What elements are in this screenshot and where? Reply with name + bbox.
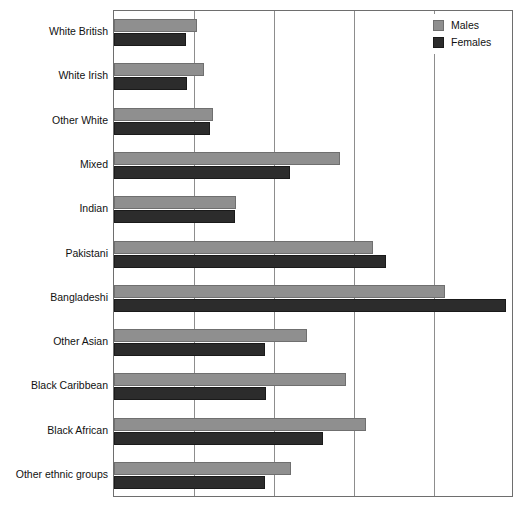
- legend-item-males: Males: [433, 18, 506, 33]
- bar-males: [114, 19, 197, 32]
- bar-males: [114, 373, 346, 386]
- category-axis-labels: White BritishWhite IrishOther WhiteMixed…: [0, 10, 108, 497]
- bar-males: [114, 241, 373, 254]
- bar-males: [114, 152, 340, 165]
- males-swatch-icon: [433, 20, 444, 31]
- category-label: Bangladeshi: [0, 292, 108, 303]
- bar-row: [114, 63, 512, 91]
- bar-females: [114, 299, 506, 312]
- category-label: Other White: [0, 115, 108, 126]
- category-label: Black African: [0, 425, 108, 436]
- bar-females: [114, 33, 186, 46]
- category-label: Other Asian: [0, 336, 108, 347]
- bar-row: [114, 462, 512, 490]
- bar-females: [114, 343, 265, 356]
- bar-chart: White BritishWhite IrishOther WhiteMixed…: [0, 0, 528, 513]
- legend-item-females: Females: [433, 35, 506, 50]
- females-swatch-icon: [433, 37, 444, 48]
- bar-females: [114, 387, 266, 400]
- chart-legend: MalesFemales: [428, 14, 508, 54]
- bar-rows: [114, 11, 512, 496]
- bar-females: [114, 210, 235, 223]
- bar-males: [114, 285, 445, 298]
- bar-row: [114, 329, 512, 357]
- category-label: Indian: [0, 203, 108, 214]
- bar-females: [114, 122, 210, 135]
- bar-row: [114, 196, 512, 224]
- bar-males: [114, 108, 213, 121]
- bar-row: [114, 285, 512, 313]
- bar-males: [114, 462, 291, 475]
- bar-females: [114, 432, 323, 445]
- bar-males: [114, 196, 236, 209]
- bar-females: [114, 476, 265, 489]
- bar-row: [114, 241, 512, 269]
- bar-females: [114, 166, 290, 179]
- legend-label: Females: [451, 37, 491, 48]
- bar-females: [114, 255, 386, 268]
- bar-males: [114, 418, 366, 431]
- category-label: White Irish: [0, 70, 108, 81]
- bar-row: [114, 108, 512, 136]
- bar-females: [114, 77, 187, 90]
- category-label: Other ethnic groups: [0, 469, 108, 480]
- legend-label: Males: [451, 20, 479, 31]
- category-label: Black Caribbean: [0, 380, 108, 391]
- plot-area: [113, 10, 513, 497]
- bar-row: [114, 152, 512, 180]
- bar-row: [114, 418, 512, 446]
- category-label: Mixed: [0, 159, 108, 170]
- bar-males: [114, 63, 204, 76]
- bar-males: [114, 329, 307, 342]
- bar-row: [114, 373, 512, 401]
- category-label: White British: [0, 26, 108, 37]
- category-label: Pakistani: [0, 248, 108, 259]
